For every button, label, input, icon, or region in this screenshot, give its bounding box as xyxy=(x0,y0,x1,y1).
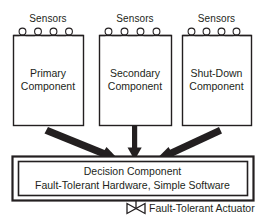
component-label-primary-line1: Primary xyxy=(13,67,83,80)
sensor-circles-primary xyxy=(19,28,72,35)
sensor-label-primary: Sensors xyxy=(13,13,83,24)
arrow-shutdown-to-decision xyxy=(156,127,222,160)
sensor-circles-secondary xyxy=(105,28,160,35)
sensor-label-shutdown: Sensors xyxy=(182,13,251,24)
component-label-shutdown-line2: Component xyxy=(182,80,251,93)
sensor-label-secondary: Sensors xyxy=(99,13,171,24)
sensor-circles-shutdown xyxy=(188,28,240,35)
diagram-canvas: Sensors Sensors Sensors Primary Componen… xyxy=(0,0,268,224)
decision-label-line1: Decision Component xyxy=(18,165,247,178)
arrow-secondary-to-decision xyxy=(128,126,142,160)
component-label-shutdown-line1: Shut-Down xyxy=(182,67,251,80)
actuator-label: Fault-Tolerant Actuator xyxy=(149,203,255,214)
component-label-secondary-line1: Secondary xyxy=(99,67,171,80)
component-label-primary-line2: Component xyxy=(13,80,83,93)
arrow-primary-to-decision xyxy=(45,127,119,160)
component-label-secondary-line2: Component xyxy=(99,80,171,93)
decision-label-line2: Fault-Tolerant Hardware, Simple Software xyxy=(18,179,247,192)
